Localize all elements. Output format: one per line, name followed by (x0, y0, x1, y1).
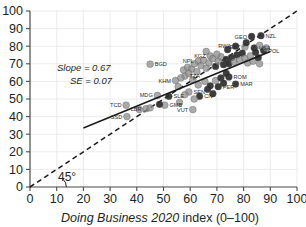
data-point (243, 39, 250, 46)
x-tick-label: 80 (237, 192, 251, 206)
point-label: NZL (266, 33, 277, 39)
angle-label: 45° (58, 170, 76, 184)
point-label: LBR (131, 106, 142, 112)
point-label: PER (223, 84, 235, 90)
x-axis-title: Doing Business 2020 index (0–100) (61, 211, 259, 225)
y-tick-label: 80 (9, 40, 23, 54)
x-tick-label: 50 (157, 192, 171, 206)
point-label: VUT (177, 107, 189, 113)
data-point (156, 101, 163, 108)
y-tick-labels: 0102030405060708090100 (2, 4, 23, 194)
data-point (124, 113, 131, 120)
y-tick-label: 90 (9, 22, 23, 36)
x-tick-label: 30 (103, 192, 117, 206)
data-point (177, 74, 184, 81)
svg-text:Doing Business 2020 index (0–1: Doing Business 2020 index (0–100) (61, 211, 259, 225)
point-label: SSD (111, 114, 123, 120)
x-tick-label: 100 (287, 192, 306, 206)
y-tick-label: 40 (9, 110, 23, 124)
y-tick-label: 70 (9, 57, 23, 71)
y-tick-label: 30 (9, 128, 23, 142)
angle-annotation: 45° (58, 170, 76, 187)
gridlines (30, 11, 297, 187)
point-label: TCD (110, 102, 122, 108)
data-point (147, 61, 154, 68)
point-label: GEO (235, 34, 248, 40)
data-point (147, 104, 154, 111)
data-point (214, 51, 221, 58)
data-point (207, 82, 214, 89)
x-tick-label: 60 (183, 192, 197, 206)
scatter-plot-svg: TCDSSDLBRMDGSLEGMBBGDKHMTZANPLKGZSENCIVV… (0, 0, 306, 227)
x-tick-label: 10 (50, 192, 64, 206)
slope-label: Slope = 0.67 (57, 62, 111, 73)
se-label: SE = 0.07 (70, 75, 113, 86)
x-tick-label: 40 (130, 192, 144, 206)
y-tick-label: 10 (9, 163, 23, 177)
y-tick-label: 50 (9, 92, 23, 106)
data-point (258, 32, 265, 39)
point-label: MAR (240, 81, 252, 87)
data-point (256, 60, 263, 67)
x-axis-title-italic: Doing Business 2020 (61, 211, 179, 225)
slope-annotation: Slope = 0.67 SE = 0.07 (57, 62, 113, 86)
chart-figure: TCDSSDLBRMDGSLEGMBBGDKHMTZANPLKGZSENCIVV… (0, 0, 306, 227)
x-tick-label: 20 (76, 192, 90, 206)
point-label: BGD (155, 61, 167, 67)
point-label: ROM (234, 74, 247, 80)
x-axis-title-rest: index (0–100) (179, 211, 259, 225)
y-tick-label: 100 (2, 4, 23, 18)
x-tick-label: 70 (210, 192, 224, 206)
point-label: NPL (183, 58, 194, 64)
point-label: KHM (158, 78, 171, 84)
point-label: MDG (140, 92, 153, 98)
data-point (189, 106, 196, 113)
point-label: POL (268, 48, 279, 54)
y-tick-label: 60 (9, 75, 23, 89)
point-label: SLE (173, 93, 184, 99)
x-tick-labels: 0102030405060708090100 (27, 192, 306, 206)
x-tick-label: 90 (263, 192, 277, 206)
y-tick-label: 0 (16, 180, 23, 194)
point-label: KGZ (194, 53, 206, 59)
data-point (123, 102, 130, 109)
data-point (248, 33, 255, 40)
point-label: EST (229, 44, 240, 50)
x-tick-label: 0 (27, 192, 34, 206)
y-tick-label: 20 (9, 145, 23, 159)
point-label: CIV (204, 93, 214, 99)
data-point (191, 96, 198, 103)
point-label: TZA (189, 73, 200, 79)
